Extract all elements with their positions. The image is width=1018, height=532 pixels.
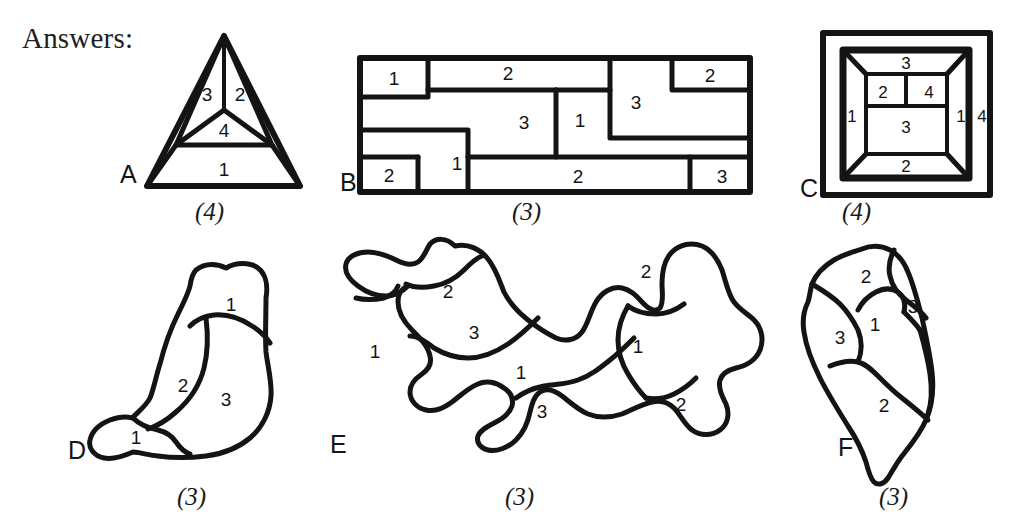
region-label: 2: [384, 165, 395, 187]
region-label: 2: [705, 65, 716, 87]
region-label: 1: [226, 294, 237, 316]
figure-count-f: (3): [879, 483, 908, 511]
region-label: 3: [519, 112, 530, 134]
region-label: 2: [235, 84, 246, 106]
region-label: 2: [878, 83, 887, 103]
region-label: 3: [537, 401, 548, 423]
region-label: 2: [676, 394, 687, 416]
region-label: 2: [641, 261, 652, 283]
region-label: 1: [633, 336, 644, 358]
region-label: 1: [516, 362, 527, 384]
figure-letter-c: C: [800, 174, 818, 203]
region-label: 1: [370, 341, 381, 363]
region-label: 1: [870, 314, 881, 336]
region-label: 3: [221, 389, 232, 411]
figure-count-e: (3): [505, 483, 534, 511]
region-label: 1: [452, 153, 463, 175]
figure-letter-a: A: [120, 160, 137, 189]
region-label: 1: [219, 159, 230, 181]
region-label: 3: [469, 322, 480, 344]
region-label: 3: [717, 166, 728, 188]
region-label: 1: [956, 107, 965, 127]
answers-figure-page: Answers:: [0, 0, 1018, 532]
region-label: 4: [219, 120, 230, 142]
region-label: 4: [924, 83, 933, 103]
region-label: 3: [835, 327, 846, 349]
figure-letter-b: B: [340, 168, 357, 197]
region-label: 3: [901, 54, 910, 74]
figure-b-drawing: [360, 58, 750, 192]
region-label: 3: [202, 84, 213, 106]
figure-e-drawing: [346, 239, 762, 450]
region-label: 2: [443, 281, 454, 303]
figure-letter-d: D: [68, 436, 86, 465]
region-label: 1: [847, 107, 856, 127]
figure-count-d: (3): [177, 483, 206, 511]
region-label: 1: [131, 427, 142, 449]
figure-letter-f: F: [838, 433, 853, 462]
region-label: 2: [901, 157, 910, 177]
region-label: 2: [573, 166, 584, 188]
region-label: 2: [503, 63, 514, 85]
figure-count-a: (4): [195, 198, 224, 226]
figure-count-b: (3): [512, 198, 541, 226]
region-label: 1: [575, 110, 586, 132]
region-label: 1: [389, 68, 400, 90]
region-label: 3: [908, 296, 919, 318]
figure-d-drawing: [90, 264, 272, 459]
region-label: 3: [631, 92, 642, 114]
figure-count-c: (4): [842, 198, 871, 226]
region-label: 2: [879, 395, 890, 417]
region-label: 2: [178, 375, 189, 397]
region-label: 2: [861, 266, 872, 288]
region-label: 4: [977, 107, 986, 127]
figure-letter-e: E: [330, 430, 347, 459]
region-label: 3: [901, 118, 910, 138]
